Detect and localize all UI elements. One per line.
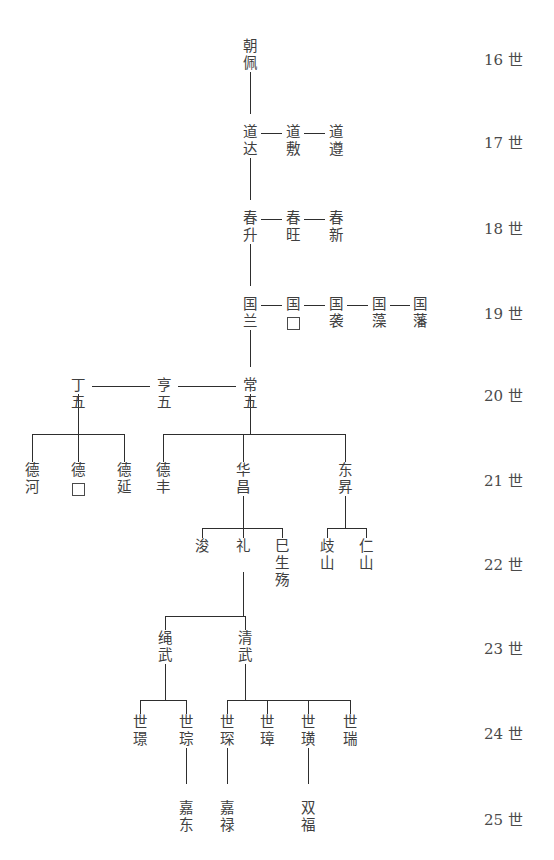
person-name-char: 兰	[243, 313, 257, 330]
person-node[interactable]: 德河	[25, 462, 39, 496]
person-name-char: 五	[157, 394, 171, 411]
person-node[interactable]: 华昌	[236, 462, 250, 496]
person-node[interactable]: 国袭	[329, 296, 343, 330]
sibling-link-s18-b	[304, 219, 325, 220]
bus-drop-p21-5	[243, 434, 244, 462]
person-node[interactable]: 世琛	[220, 714, 234, 748]
parent-link-e17-18	[250, 158, 251, 200]
bus-bar-bus23-24-qing	[227, 700, 350, 701]
person-node[interactable]: 嘉禄	[220, 800, 234, 834]
person-node[interactable]: 国兰	[243, 296, 257, 330]
person-name-char: 春	[243, 210, 257, 227]
person-name-char: 道	[243, 124, 257, 141]
person-name-char: 东	[179, 817, 193, 834]
person-node[interactable]: 朝佩	[243, 38, 257, 72]
person-name-char: 升	[243, 227, 257, 244]
person-node[interactable]: 德丰	[156, 462, 170, 496]
person-node[interactable]: 春新	[329, 210, 343, 244]
bus-drop-p23-2	[245, 616, 246, 630]
person-name-char: 璟	[133, 731, 147, 748]
person-node[interactable]: 国藻	[372, 296, 386, 330]
parent-link-e24-25b	[227, 748, 228, 784]
bus-drop-p22-1	[202, 528, 203, 538]
person-name-char: 德	[156, 462, 170, 479]
person-node[interactable]: 浚	[195, 538, 209, 555]
person-node[interactable]: 亨五	[157, 377, 171, 411]
sibling-link-s19-a	[261, 305, 282, 306]
person-name-char: 嘉	[220, 800, 234, 817]
person-name-char: 五	[71, 394, 85, 411]
person-node[interactable]: 世璜	[301, 714, 315, 748]
person-name-char: 山	[359, 555, 373, 572]
person-name-char: 殇	[275, 572, 289, 589]
person-node[interactable]: 绳武	[158, 630, 172, 664]
sibling-link-s19-c	[347, 305, 368, 306]
bus-drop-p24-1	[140, 700, 141, 714]
person-name-char: 绳	[158, 630, 172, 647]
bus-drop-p24-3	[227, 700, 228, 714]
person-name-char: 璋	[260, 731, 274, 748]
person-node[interactable]: 道遵	[329, 124, 343, 158]
person-node[interactable]: 春旺	[286, 210, 300, 244]
person-name-char: 双	[301, 800, 315, 817]
person-name-char: 昌	[236, 479, 250, 496]
person-node[interactable]: 丁五	[71, 377, 85, 411]
person-node[interactable]: 嘉东	[179, 800, 193, 834]
person-node[interactable]: 巳生殇	[275, 538, 289, 589]
generation-label-gen17: 17 世	[484, 131, 523, 152]
sibling-link-s17-a	[261, 133, 282, 134]
person-name-char: 国	[286, 296, 300, 313]
person-node[interactable]: 仁山	[359, 538, 373, 572]
person-node[interactable]: 礼	[236, 538, 250, 555]
bus-stem-bus21-22-dong	[345, 516, 346, 528]
parent-link-e23-24b	[245, 664, 246, 688]
person-node[interactable]: 世琮	[179, 714, 193, 748]
person-node[interactable]: 道敷	[286, 124, 300, 158]
person-node[interactable]: 道达	[243, 124, 257, 158]
person-name-char: 山	[320, 555, 334, 572]
person-node[interactable]: 东昇	[338, 462, 352, 496]
person-name-char: 德	[71, 462, 85, 479]
person-node[interactable]: 歧山	[320, 538, 334, 572]
person-name-char: 道	[286, 124, 300, 141]
person-name-char: 亨	[157, 377, 171, 394]
person-name-char: 国	[413, 296, 427, 313]
bus-drop-p24-2	[186, 700, 187, 714]
person-name-char: 琮	[179, 731, 193, 748]
person-name-char: 琛	[220, 731, 234, 748]
person-name-char: 璜	[301, 731, 315, 748]
person-node[interactable]: 春升	[243, 210, 257, 244]
person-name-char: 世	[179, 714, 193, 731]
person-node[interactable]: 清武	[238, 630, 252, 664]
person-node[interactable]: 常五	[243, 377, 257, 411]
person-name-char: 达	[243, 141, 257, 158]
person-node[interactable]: 世璋	[260, 714, 274, 748]
person-name-char: 五	[243, 394, 257, 411]
person-node[interactable]: 德延	[117, 462, 131, 496]
person-name-char: 世	[343, 714, 357, 731]
genealogy-chart: 朝佩道达道敷道遵春升春旺春新国兰国国袭国藻国藩丁五亨五常五德河德德延德丰华昌东昇…	[0, 0, 554, 860]
person-name-char: 武	[238, 647, 252, 664]
person-node[interactable]: 世璟	[133, 714, 147, 748]
bus-drop-p22-3	[282, 528, 283, 538]
person-name-char: 瑞	[343, 731, 357, 748]
person-node[interactable]: 德	[71, 462, 85, 496]
parent-link-e19-20	[250, 330, 251, 367]
person-name-char: 国	[329, 296, 343, 313]
bus-stem-bus22-23	[243, 604, 244, 616]
person-name-char: 国	[243, 296, 257, 313]
person-node[interactable]: 国藩	[413, 296, 427, 330]
person-name-char: 佩	[243, 55, 257, 72]
person-name-char: 华	[236, 462, 250, 479]
person-node[interactable]: 国	[286, 296, 300, 330]
bus-drop-p24-4	[267, 700, 268, 714]
person-name-char: 敷	[286, 141, 300, 158]
parent-link-e24-25a	[186, 748, 187, 784]
person-name-char: 旺	[286, 227, 300, 244]
person-name-char: 遵	[329, 141, 343, 158]
parent-link-e16-17	[250, 72, 251, 114]
person-node[interactable]: 双福	[301, 800, 315, 834]
person-name-char: 东	[338, 462, 352, 479]
sibling-link-s19-b	[304, 305, 325, 306]
person-node[interactable]: 世瑞	[343, 714, 357, 748]
